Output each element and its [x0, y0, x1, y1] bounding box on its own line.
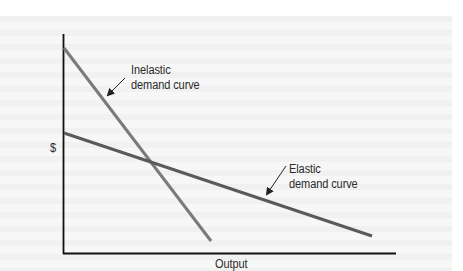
x-axis-label: Output	[215, 257, 248, 271]
elastic-label-line2: demand curve	[289, 177, 358, 191]
inelastic-arrow-icon	[108, 78, 125, 95]
inelastic-label-line1: Inelastic	[131, 63, 171, 77]
elastic-label-line1: Elastic	[289, 162, 321, 176]
elastic-arrow-icon	[267, 166, 286, 194]
inelastic-label-line2: demand curve	[131, 78, 200, 92]
demand-chart	[0, 0, 463, 271]
y-axis-label: $	[50, 141, 56, 155]
